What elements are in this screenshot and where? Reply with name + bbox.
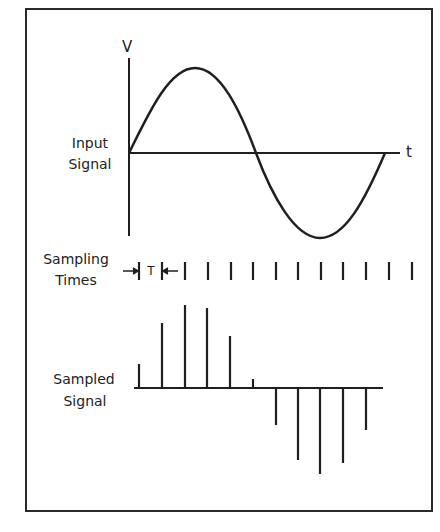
sampled-signal-label-1: Sampled	[44, 368, 124, 390]
t-axis-label: t	[406, 141, 412, 163]
sampled-signal-label-2: Signal	[50, 390, 120, 412]
input-signal-label-2: Signal	[60, 153, 120, 175]
v-axis-label: V	[122, 36, 132, 58]
sample-bars	[139, 305, 366, 474]
sampling-ticks	[139, 262, 412, 280]
input-signal-label-1: Input	[60, 132, 120, 154]
sampling-times-label-2: Times	[36, 269, 116, 291]
sampling-times-label-1: Sampling	[28, 248, 124, 270]
period-label: T	[144, 260, 158, 282]
